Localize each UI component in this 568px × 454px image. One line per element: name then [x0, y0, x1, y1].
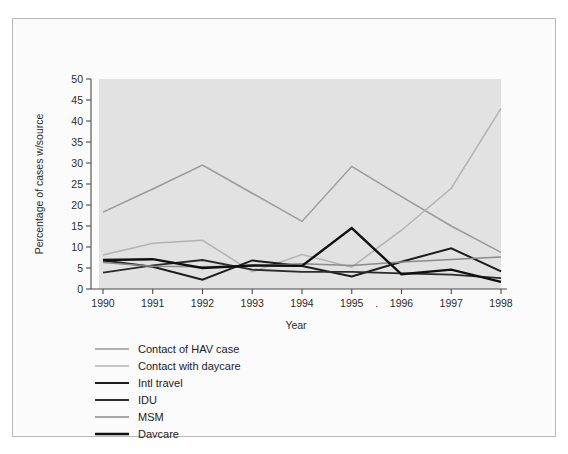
y-tick-label: 20	[71, 199, 83, 211]
y-tick-label: 15	[71, 220, 83, 232]
legend-item[interactable]: Contact of HAV case	[95, 343, 239, 355]
x-tick-label: 1998	[489, 297, 513, 309]
y-tick-label: 50	[71, 73, 83, 85]
stray-mark: .	[375, 297, 378, 309]
x-tick-label: 1995	[340, 297, 364, 309]
chart-canvas: 05101520253035404550Percentage of cases …	[13, 19, 557, 438]
x-tick-label: 1993	[241, 297, 265, 309]
y-tick-label: 25	[71, 178, 83, 190]
legend-item[interactable]: Intl travel	[95, 377, 183, 389]
y-tick-label: 30	[71, 157, 83, 169]
y-tick-label: 0	[77, 283, 83, 295]
legend-item[interactable]: MSM	[95, 411, 164, 423]
y-tick-label: 35	[71, 136, 83, 148]
x-tick-label: 1994	[290, 297, 314, 309]
x-tick-label: 1996	[390, 297, 414, 309]
legend-label: IDU	[138, 394, 157, 406]
line-chart: 05101520253035404550Percentage of cases …	[13, 19, 557, 438]
legend-label: Contact with daycare	[138, 360, 241, 372]
legend-item[interactable]: IDU	[95, 394, 157, 406]
plot-background	[99, 79, 501, 289]
x-tick-label: 1992	[191, 297, 215, 309]
y-tick-label: 10	[71, 241, 83, 253]
legend-label: MSM	[138, 411, 164, 423]
legend-label: Daycare	[138, 428, 179, 438]
x-tick-label: 1991	[141, 297, 165, 309]
legend-item[interactable]: Daycare	[95, 428, 179, 438]
legend-label: Contact of HAV case	[138, 343, 239, 355]
y-axis-title: Percentage of cases w/source	[33, 114, 45, 255]
legend-label: Intl travel	[138, 377, 183, 389]
figure-frame: 05101520253035404550Percentage of cases …	[12, 18, 556, 437]
x-axis-title: Year	[285, 319, 307, 331]
x-tick-label: 1990	[91, 297, 115, 309]
y-tick-label: 45	[71, 94, 83, 106]
legend-item[interactable]: Contact with daycare	[95, 360, 241, 372]
y-tick-label: 5	[77, 262, 83, 274]
x-tick-label: 1997	[440, 297, 464, 309]
y-tick-label: 40	[71, 115, 83, 127]
